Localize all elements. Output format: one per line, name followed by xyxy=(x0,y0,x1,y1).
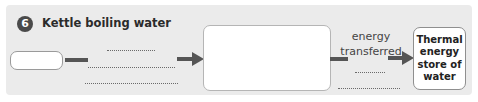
question-number-badge: 6 xyxy=(17,16,33,32)
connector-line-left xyxy=(65,58,88,62)
question-title: Kettle boiling water xyxy=(42,16,171,30)
right-arrow-icon xyxy=(388,51,414,65)
answer-line-left-2[interactable] xyxy=(88,67,175,68)
middle-answer-box[interactable] xyxy=(203,25,331,91)
answer-line-left-1[interactable] xyxy=(107,50,155,51)
thermal-energy-store-label: Thermal energy store of water xyxy=(414,34,465,84)
answer-line-right-2[interactable] xyxy=(338,88,400,89)
start-energy-store-input[interactable] xyxy=(10,51,63,70)
answer-line-left-3[interactable] xyxy=(85,83,178,84)
answer-line-right-1[interactable] xyxy=(355,72,385,73)
right-arrow-icon xyxy=(177,52,204,66)
thermal-energy-store-box: Thermal energy store of water xyxy=(413,27,466,90)
